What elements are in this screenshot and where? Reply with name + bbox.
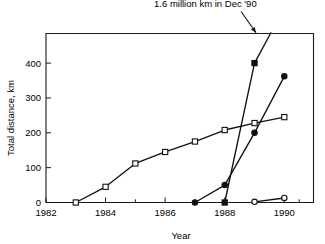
series-polyline [225,33,271,203]
series-open-circle-series [252,195,287,204]
y-axis-title: Total distance, km [5,80,16,156]
series-polyline [195,76,284,202]
y-axis-tick-labels: 0100200300400 [25,58,41,208]
chart-annotation-label: 1.6 million km in Dec '90 [154,0,257,9]
annotation-arrow-head [251,27,256,33]
series-polyline [255,198,285,202]
data-point-filled-square [222,200,227,205]
y-tick-label: 400 [25,58,41,69]
data-point-filled-circle [222,182,227,187]
y-tick-label: 300 [25,92,41,103]
data-point-open-circle [282,195,287,200]
data-point-open-square [103,184,108,189]
data-point-open-square [133,161,138,166]
line-chart: 19821984198619881990 0100200300400 1.6 m… [0,0,325,244]
chart-figure: 19821984198619881990 0100200300400 1.6 m… [0,0,325,244]
data-point-open-square [222,127,227,132]
annotation-layer: 1.6 million km in Dec '90 [154,0,257,33]
series-filled-square-series [222,33,271,205]
x-axis-tick-labels: 19821984198619881990 [35,207,294,218]
x-tick-label: 1990 [274,207,295,218]
series-filled-circle-series [192,74,287,206]
data-point-open-circle [252,199,257,204]
x-tick-label: 1984 [95,207,116,218]
x-tick-label: 1988 [214,207,235,218]
data-point-filled-circle [192,200,197,205]
x-axis-title: Year [171,230,190,241]
data-point-open-square [163,149,168,154]
y-tick-label: 0 [36,197,41,208]
series-open-square-series [73,115,287,206]
data-series-layer [73,33,287,205]
data-point-open-square [282,115,287,120]
y-tick-label: 200 [25,127,41,138]
data-point-filled-square [252,61,257,66]
y-axis-ticks [46,63,51,202]
data-point-filled-circle [282,74,287,79]
data-point-open-square [192,139,197,144]
x-tick-label: 1982 [35,207,56,218]
data-point-filled-circle [252,130,257,135]
data-point-open-square [252,120,257,125]
axis-frame [46,34,314,203]
y-tick-label: 100 [25,162,41,173]
x-tick-label: 1986 [155,207,176,218]
data-point-open-square [73,200,78,205]
